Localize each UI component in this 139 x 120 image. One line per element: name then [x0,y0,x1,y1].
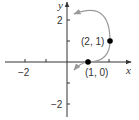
y-axis-label: y [57,0,63,11]
y-tick-label-2: 2 [57,15,63,26]
point-label-1-0: (1, 0) [85,67,108,78]
y-tick-label-neg2: −2 [51,99,63,110]
point-1-0 [85,59,91,65]
parabola-graph: y x −2 2 −2 (2, 1) (1, 0) [0,0,139,120]
point-2-1 [107,38,113,44]
x-tick-label-neg2: −2 [18,67,30,78]
point-label-2-1: (2, 1) [81,36,104,47]
x-axis-label: x [125,64,131,76]
